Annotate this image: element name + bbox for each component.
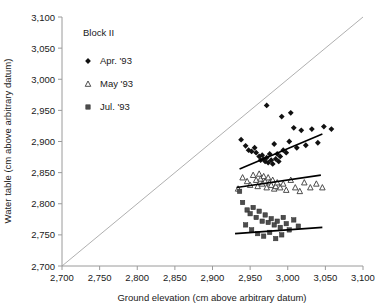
data-point-diamond — [286, 139, 292, 145]
y-tick-label: 3,100 — [31, 12, 55, 23]
data-point-square — [249, 228, 253, 232]
scatter-chart: 2,7002,7502,8002,8502,9002,9503,0003,050… — [0, 0, 377, 306]
y-tick-label: 2,750 — [31, 229, 55, 240]
data-point-diamond — [288, 110, 294, 116]
data-point-triangle — [308, 185, 314, 190]
y-tick-label: 2,850 — [31, 167, 55, 178]
y-tick-label: 2,950 — [31, 105, 55, 116]
legend-label: Apr. '93 — [100, 55, 132, 66]
data-point-triangle — [314, 181, 320, 186]
series-triangle — [235, 171, 325, 194]
data-point-diamond — [303, 142, 309, 148]
data-point-square — [248, 212, 252, 216]
data-point-square — [243, 223, 247, 227]
data-point-square — [240, 200, 244, 204]
data-point-square — [261, 234, 265, 238]
data-point-triangle — [265, 175, 271, 180]
data-point-diamond — [321, 124, 327, 130]
data-point-diamond — [328, 126, 334, 132]
data-point-square — [284, 221, 288, 225]
square-icon — [86, 105, 90, 109]
x-tick-label: 2,950 — [238, 272, 262, 283]
data-point-square — [274, 236, 278, 240]
x-tick-label: 2,750 — [88, 272, 112, 283]
x-axis-ticks — [62, 266, 363, 270]
legend-title: Block II — [83, 27, 114, 38]
y-axis-title: Water table (cm above arbitrary datum) — [2, 59, 13, 224]
data-point-square — [263, 213, 267, 217]
data-point-square — [278, 225, 282, 229]
data-point-diamond — [279, 114, 285, 120]
data-point-diamond — [243, 143, 249, 149]
data-point-square — [257, 209, 261, 213]
legend-entry: Apr. '93 — [85, 55, 132, 66]
diamond-icon — [85, 58, 91, 64]
x-tick-label: 3,050 — [313, 272, 337, 283]
data-point-diamond — [238, 137, 244, 143]
data-point-diamond — [298, 127, 304, 133]
data-point-square — [281, 215, 285, 219]
data-point-triangle — [250, 172, 256, 177]
x-tick-label: 3,100 — [351, 272, 375, 283]
data-point-square — [296, 224, 300, 228]
y-axis-ticks — [58, 17, 62, 266]
y-axis-tick-labels: 2,7002,7502,8002,8502,9002,9503,0003,050… — [31, 12, 55, 272]
x-tick-label: 2,700 — [50, 272, 74, 283]
data-point-triangle — [320, 185, 326, 190]
y-tick-label: 3,000 — [31, 74, 55, 85]
x-tick-label: 2,850 — [163, 272, 187, 283]
trend-line-triangle — [237, 175, 321, 187]
data-series-layer — [235, 102, 334, 240]
data-point-triangle — [256, 171, 262, 176]
legend-entry: Jul. '93 — [86, 101, 130, 112]
legend-entries: Apr. '93May '93Jul. '93 — [85, 55, 133, 112]
y-tick-label: 3,050 — [31, 43, 55, 54]
x-axis-tick-labels: 2,7002,7502,8002,8502,9002,9503,0003,050… — [50, 272, 375, 283]
data-point-square — [260, 219, 264, 223]
y-tick-label: 2,900 — [31, 136, 55, 147]
data-point-diamond — [291, 125, 297, 131]
x-tick-label: 2,900 — [201, 272, 225, 283]
data-point-diamond — [271, 141, 277, 147]
x-tick-label: 3,000 — [276, 272, 300, 283]
data-point-square — [269, 216, 273, 220]
data-point-diamond — [309, 126, 315, 132]
data-point-triangle — [240, 175, 246, 180]
data-point-square — [237, 189, 241, 193]
x-tick-label: 2,800 — [125, 272, 149, 283]
data-point-triangle — [302, 180, 308, 185]
chart-canvas: 2,7002,7502,8002,8502,9002,9503,0003,050… — [0, 0, 377, 306]
chart-legend: Block II Apr. '93May '93Jul. '93 — [83, 27, 133, 112]
data-point-square — [280, 233, 284, 237]
data-point-square — [275, 219, 279, 223]
legend-label: Jul. '93 — [100, 101, 130, 112]
data-point-triangle — [293, 185, 299, 190]
legend-label: May '93 — [100, 78, 133, 89]
legend-entry: May '93 — [85, 78, 133, 89]
data-point-square — [254, 215, 258, 219]
x-axis-title: Ground elevation (cm above arbitrary dat… — [117, 292, 306, 303]
data-point-diamond — [264, 102, 270, 108]
data-point-square — [251, 205, 255, 209]
y-tick-label: 2,800 — [31, 198, 55, 209]
data-point-diamond — [315, 140, 321, 146]
triangle-icon — [85, 81, 91, 86]
data-point-triangle — [283, 187, 289, 192]
data-point-square — [292, 218, 296, 222]
y-tick-label: 2,700 — [31, 261, 55, 272]
